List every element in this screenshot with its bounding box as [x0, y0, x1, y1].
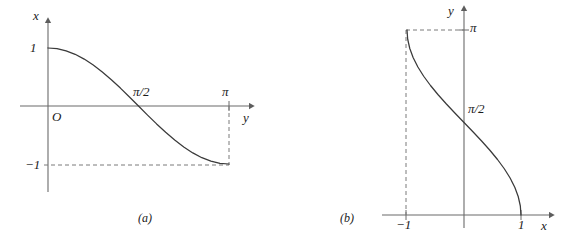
- figure-root: x 1 O π/2 π y −1 (a): [0, 0, 576, 243]
- panel-b: y π π/2 −1 1 x (b): [288, 0, 576, 243]
- panel-b-plot: [288, 0, 576, 243]
- panel-b-tick-label-negative-one: −1: [396, 218, 411, 231]
- panel-a-origin-label: O: [52, 110, 61, 123]
- panel-b-tick-label-one: 1: [518, 218, 525, 231]
- panel-a-tick-label-pi-over-two: π/2: [133, 85, 150, 98]
- panel-a-horizontal-axis-label: y: [243, 111, 249, 124]
- panel-b-tick-label-pi-over-two: π/2: [468, 102, 485, 115]
- panel-a-vertical-axis-label: x: [33, 9, 39, 22]
- panel-b-horizontal-axis-label: x: [541, 219, 547, 232]
- panel-b-vertical-axis-label: y: [448, 4, 454, 17]
- panel-a-tick-label-negative-one: −1: [25, 158, 40, 171]
- panel-a-tick-label-one: 1: [30, 41, 37, 54]
- panel-b-tick-label-pi: π: [470, 21, 477, 34]
- panel-b-caption: (b): [340, 212, 354, 224]
- panel-a: x 1 O π/2 π y −1 (a): [0, 0, 288, 243]
- panel-a-tick-label-pi: π: [222, 85, 229, 98]
- panel-a-caption: (a): [138, 212, 152, 224]
